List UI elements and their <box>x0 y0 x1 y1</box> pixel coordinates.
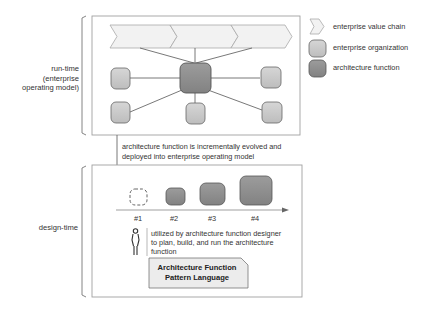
pattern-language-line: Architecture Function <box>149 263 245 273</box>
org-box <box>261 67 281 88</box>
org-box <box>111 68 130 89</box>
legend-label-value-chain: enterprise value chain <box>333 22 405 31</box>
legend-label-architecture: architecture function <box>333 63 400 72</box>
evolution-box-3 <box>200 183 225 205</box>
org-box <box>186 103 205 124</box>
designer-description: utilized by architecture function design… <box>151 229 281 257</box>
legend-org-icon <box>309 40 326 57</box>
chevron-icon <box>110 25 177 48</box>
value-chain <box>110 25 292 48</box>
connector-line-text: deployed into enterprise operating model <box>122 152 281 162</box>
designtime-bracket <box>82 166 86 297</box>
pattern-language-line: Pattern Language <box>149 273 245 283</box>
designer-line: utilized by architecture function design… <box>151 229 281 238</box>
architecture-function-box <box>180 63 211 93</box>
connector-line-text: architecture function is incrementally e… <box>122 142 281 152</box>
evolution-box-4 <box>240 176 272 205</box>
legend-arch-icon <box>309 60 326 77</box>
evolution-box-2 <box>166 188 185 205</box>
runtime-label-line: run-time <box>2 64 79 74</box>
designtime-label: design-time <box>2 223 78 233</box>
chevron-icon <box>170 25 238 48</box>
runtime-bracket <box>82 16 86 135</box>
chevron-icon <box>231 25 292 48</box>
step-label-3: #3 <box>208 214 216 223</box>
org-box <box>111 102 130 123</box>
legend-label-organization: enterprise organization <box>333 43 408 52</box>
pattern-language-title: Architecture Function Pattern Language <box>149 263 245 283</box>
designer-line: to plan, build, and run the architecture <box>151 238 281 247</box>
designer-line: function <box>151 247 281 256</box>
org-box <box>262 102 282 123</box>
runtime-label: run-time (enterprise operating model) <box>2 64 79 93</box>
runtime-label-line: operating model) <box>2 83 79 93</box>
step-label-2: #2 <box>170 214 178 223</box>
legend-chevron-icon <box>310 19 324 34</box>
step-label-4: #4 <box>251 214 259 223</box>
step-label-1: #1 <box>134 214 142 223</box>
runtime-label-line: (enterprise <box>2 74 79 84</box>
connector-annotation: architecture function is incrementally e… <box>122 142 281 161</box>
evolution-box-1 <box>130 189 147 205</box>
